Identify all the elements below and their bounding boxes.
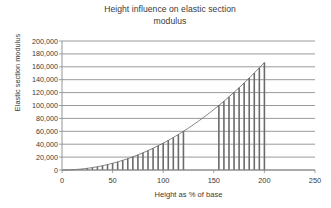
bar [264, 62, 266, 170]
chart-container: Height influence on elastic section modu… [0, 0, 331, 208]
plot-area [0, 0, 331, 208]
gridlines [62, 41, 315, 170]
bar [102, 166, 104, 170]
bar [228, 97, 230, 170]
bar [167, 140, 169, 170]
bar [112, 163, 114, 170]
bar [178, 134, 180, 170]
bar [223, 101, 225, 170]
bar [107, 165, 109, 170]
bar [122, 160, 124, 170]
bar [142, 153, 144, 170]
bar [117, 162, 119, 170]
bar [248, 78, 250, 170]
bar [259, 68, 261, 170]
bar [152, 148, 154, 170]
bar [243, 83, 245, 170]
bar [183, 131, 185, 170]
axis-ticks [59, 41, 315, 173]
bar-series [62, 62, 265, 170]
bar [132, 157, 134, 170]
x-axis-title: Height as % of base [62, 190, 315, 199]
bar [162, 143, 164, 170]
bar [233, 92, 235, 170]
bar [238, 88, 240, 170]
bar [218, 105, 220, 170]
bar [157, 146, 159, 170]
bar [173, 137, 175, 170]
bar [127, 159, 129, 170]
bar [253, 73, 255, 170]
bar [137, 155, 139, 170]
bar [147, 151, 149, 170]
